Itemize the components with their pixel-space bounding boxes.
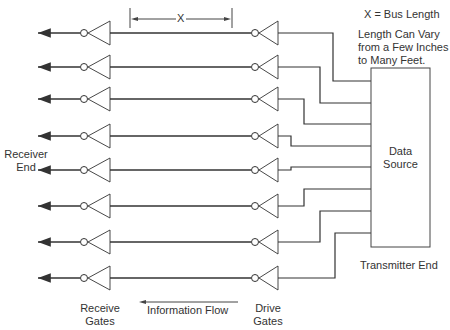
transmitter-end-label: Transmitter End [360,259,438,272]
drive-gate-bubble-icon [252,133,259,140]
receive-gates-line2: Gates [78,315,122,328]
receiver-end-line1: Receiver [4,148,48,161]
drive-gate-bubble-icon [252,96,259,103]
drive-gate-icon [259,55,278,79]
drive-gate-bubble-icon [252,30,259,37]
drive-gate-icon [259,87,278,111]
drive-gates-label: Drive Gates [248,302,288,328]
receive-gate-icon [88,230,110,254]
dimension-x-label: X [177,12,184,25]
drive-gate-bubble-icon [252,275,259,282]
data-source-line2: Source [371,158,430,171]
receive-gate-bubble-icon [81,275,88,282]
receiver-end-label: Receiver End [4,148,48,174]
length-note-line3: to Many Feet. [358,54,425,67]
receiver-end-line2: End [4,161,48,174]
receive-gate-bubble-icon [81,96,88,103]
receive-gate-bubble-icon [81,64,88,71]
source-connection-line [278,211,371,242]
drive-gate-icon [259,266,278,290]
receive-gate-bubble-icon [81,133,88,140]
receive-gate-icon [88,87,110,111]
drive-gate-bubble-icon [252,167,259,174]
receive-gate-icon [88,266,110,290]
drive-gate-icon [259,230,278,254]
source-connection-line [278,136,371,146]
receive-gate-icon [88,21,110,45]
drive-gates-line1: Drive [248,302,288,315]
receive-gate-icon [88,194,110,218]
length-note-line1: Length Can Vary [358,28,440,41]
source-connection-line [278,189,371,206]
receive-gate-bubble-icon [81,203,88,210]
receive-gate-bubble-icon [81,167,88,174]
information-flow-label: Information Flow [147,304,228,317]
drive-gate-icon [259,194,278,218]
bus-length-definition: X = Bus Length [364,8,440,21]
data-source-line1: Data [371,145,430,158]
receive-gate-bubble-icon [81,239,88,246]
source-connection-line [278,67,371,103]
receive-gate-icon [88,55,110,79]
source-connection-line [278,167,371,170]
drive-gate-icon [259,124,278,148]
drive-gate-icon [259,158,278,182]
drive-gate-bubble-icon [252,64,259,71]
length-note-line2: from a Few Inches [358,41,448,54]
receive-gate-icon [88,124,110,148]
receive-gate-bubble-icon [81,30,88,37]
drive-gate-bubble-icon [252,239,259,246]
receive-gate-icon [88,158,110,182]
receive-gates-line1: Receive [78,302,122,315]
drive-gate-bubble-icon [252,203,259,210]
data-source-label: Data Source [371,145,430,171]
drive-gates-line2: Gates [248,315,288,328]
drive-gate-icon [259,21,278,45]
receive-gates-label: Receive Gates [78,302,122,328]
source-connection-line [278,233,371,278]
